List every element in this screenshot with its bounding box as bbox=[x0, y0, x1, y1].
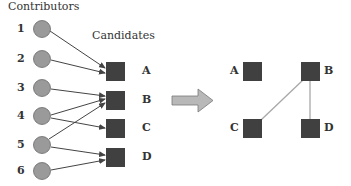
result-node-d bbox=[301, 119, 320, 138]
contributor-node-1 bbox=[34, 21, 51, 38]
result-node-c bbox=[243, 119, 262, 138]
transform-arrow-icon bbox=[172, 89, 213, 112]
candidate-node-a bbox=[106, 62, 125, 81]
edge-4-c bbox=[51, 118, 105, 128]
contributor-node-6 bbox=[34, 163, 51, 180]
candidate-node-d bbox=[106, 148, 125, 167]
diagram-canvas bbox=[0, 0, 351, 186]
contributor-node-2 bbox=[34, 51, 51, 68]
result-node-b bbox=[301, 62, 320, 81]
contributor-node-3 bbox=[34, 80, 51, 97]
candidate-nodes bbox=[106, 62, 125, 167]
edge-1-a bbox=[50, 31, 105, 68]
result-node-a bbox=[243, 62, 262, 81]
contributor-nodes bbox=[34, 21, 51, 180]
contribution-edges bbox=[49, 31, 105, 170]
result-edge-b-c bbox=[261, 80, 303, 120]
edge-3-b bbox=[51, 89, 105, 96]
result-graph-edges bbox=[261, 80, 310, 120]
edge-6-d bbox=[51, 160, 105, 170]
edge-4-b bbox=[51, 99, 105, 115]
candidate-node-c bbox=[106, 119, 125, 138]
edge-5-d bbox=[51, 147, 105, 155]
edge-5-b bbox=[49, 103, 105, 139]
contributor-node-5 bbox=[34, 137, 51, 154]
candidate-node-b bbox=[106, 91, 125, 110]
contributor-node-4 bbox=[34, 108, 51, 125]
